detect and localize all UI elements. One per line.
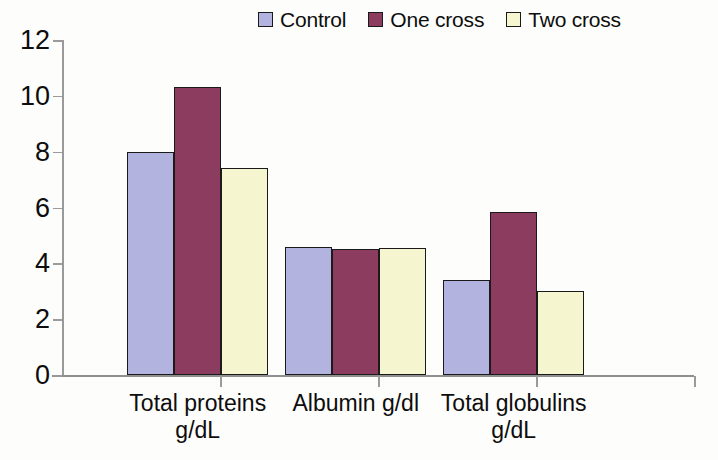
y-axis-tick	[53, 208, 62, 210]
y-axis-tick	[53, 152, 62, 154]
legend-swatch-icon	[506, 12, 521, 27]
bar	[490, 212, 537, 375]
legend-item-label: One cross	[390, 9, 484, 30]
bar	[332, 249, 379, 375]
x-axis-tick	[220, 376, 222, 387]
y-axis-tick	[53, 319, 62, 321]
y-axis-tick	[53, 263, 62, 265]
y-axis-tick-label: 8	[0, 139, 50, 166]
y-axis-tick-label: 4	[0, 250, 50, 277]
y-axis-tick	[53, 96, 62, 98]
y-axis-tick-label: 6	[0, 195, 50, 222]
y-axis-tick-label: 12	[0, 27, 50, 54]
y-axis-tick-label: 0	[0, 362, 50, 389]
x-axis-tick	[378, 376, 380, 387]
bar	[379, 248, 426, 375]
legend-item-label: Two cross	[528, 9, 621, 30]
legend-swatch-icon	[368, 12, 383, 27]
bar	[537, 291, 584, 375]
y-axis-tick	[53, 375, 62, 377]
plot-area	[62, 40, 694, 375]
bar	[174, 87, 221, 375]
legend-swatch-icon	[258, 12, 273, 27]
legend-item: Two cross	[506, 9, 621, 30]
legend-item: One cross	[368, 9, 484, 30]
y-axis-tick	[53, 40, 62, 42]
y-axis-tick-label: 2	[0, 306, 50, 333]
bar	[221, 168, 268, 375]
x-axis-line	[52, 375, 694, 377]
x-axis-tick	[536, 376, 538, 387]
y-axis-tick-label: 10	[0, 83, 50, 110]
chart-legend: ControlOne crossTwo cross	[258, 6, 714, 32]
y-axis-line	[62, 40, 64, 375]
legend-item-label: Control	[280, 9, 346, 30]
bar-chart: ControlOne crossTwo cross Total proteins…	[0, 0, 718, 460]
x-axis-tick	[694, 376, 696, 387]
bar	[443, 280, 490, 375]
bar	[285, 247, 332, 375]
bar	[127, 152, 174, 375]
x-axis-category-label: Total globulins g/dL	[394, 390, 634, 444]
legend-item: Control	[258, 9, 346, 30]
